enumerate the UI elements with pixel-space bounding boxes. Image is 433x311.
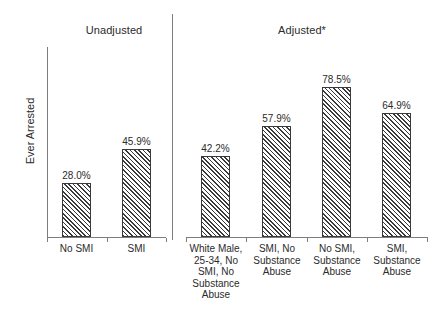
x-tick-left-mid — [107, 238, 108, 242]
bar-value-adjusted-white-male: 42.2% — [185, 143, 246, 154]
bar-value-unadjusted-no-smi: 28.0% — [46, 170, 107, 181]
x-tick-right-3 — [367, 238, 368, 242]
panel-title-adjusted: Adjusted* — [176, 24, 428, 36]
x-tick-right-1 — [246, 238, 247, 242]
bar-adjusted-smi-substance — [382, 113, 411, 237]
x-label-line: White Male, — [183, 243, 249, 255]
x-label-line: Abuse — [304, 266, 370, 278]
bar-adjusted-smi-no-substance — [262, 126, 291, 237]
x-label-unadjusted-no-smi: No SMI — [46, 243, 107, 255]
x-label-line: SMI, — [364, 243, 430, 255]
x-tick-left-start — [47, 238, 48, 242]
x-label-line: Substance — [304, 255, 370, 267]
x-label-line: Abuse — [183, 289, 249, 301]
bar-value-adjusted-smi-substance: 64.9% — [366, 100, 427, 111]
x-tick-right-0 — [186, 238, 187, 242]
bar-chart-figure: Unadjusted Adjusted* Ever Arrested 28.0%… — [0, 0, 433, 311]
x-label-line: No SMI, — [304, 243, 370, 255]
x-tick-right-2 — [307, 238, 308, 242]
panel-divider-line — [172, 14, 173, 240]
x-label-line: 25-34, No — [183, 255, 249, 267]
x-label-adjusted-no-smi-substance: No SMI, Substance Abuse — [304, 243, 370, 278]
panel-title-unadjusted: Unadjusted — [56, 24, 172, 36]
x-label-unadjusted-smi: SMI — [106, 243, 167, 255]
x-label-line: Substance — [364, 255, 430, 267]
x-label-adjusted-white-male: White Male, 25-34, No SMI, No Substance … — [183, 243, 249, 301]
bar-unadjusted-smi — [122, 149, 151, 237]
y-axis-label: Ever Arrested — [24, 51, 36, 211]
x-label-adjusted-smi-substance: SMI, Substance Abuse — [364, 243, 430, 278]
x-label-line: SMI, No — [183, 266, 249, 278]
bar-value-unadjusted-smi: 45.9% — [106, 136, 167, 147]
x-label-line: Substance — [183, 278, 249, 290]
x-label-line: Abuse — [244, 266, 310, 278]
y-axis-line — [47, 47, 48, 238]
bar-value-adjusted-smi-no-substance: 57.9% — [246, 113, 307, 124]
x-label-line: SMI, No — [244, 243, 310, 255]
bar-value-adjusted-no-smi-substance: 78.5% — [306, 74, 367, 85]
x-tick-left-end — [166, 238, 167, 242]
bar-adjusted-white-male — [201, 156, 230, 237]
x-label-line: Abuse — [364, 266, 430, 278]
x-label-adjusted-smi-no-substance: SMI, No Substance Abuse — [244, 243, 310, 278]
bar-unadjusted-no-smi — [62, 183, 91, 237]
x-tick-right-4 — [427, 238, 428, 242]
x-label-line: Substance — [244, 255, 310, 267]
bar-adjusted-no-smi-substance — [322, 87, 351, 237]
